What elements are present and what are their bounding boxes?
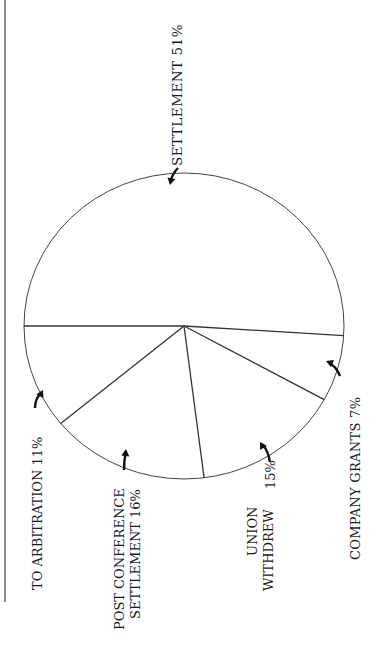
label-company-grants: COMPANY GRANTS 7% (348, 397, 363, 560)
label-to-arbitration: TO ARBITRATION 11% (30, 437, 45, 590)
slice-divider (184, 326, 204, 478)
label-settlement: SETTLEMENT 51% (169, 24, 185, 166)
slice-divider (61, 326, 184, 424)
slice-divider (184, 326, 324, 400)
label-union-value: 15% (263, 460, 278, 489)
label-union: UNION (245, 507, 260, 557)
label-withdrew: WITHDREW (261, 509, 276, 591)
arrow-post-conference-head-icon (121, 449, 129, 456)
arrow-settlement-head-icon (168, 177, 176, 185)
label-post-conference: POST CONFERENCE (112, 488, 127, 630)
pie-chart: SETTLEMENT 51% COMPANY GRANTS 7% UNION W… (0, 0, 378, 657)
slice-divider (184, 326, 344, 336)
label-post-conference-settlement: SETTLEMENT 16% (128, 489, 143, 619)
